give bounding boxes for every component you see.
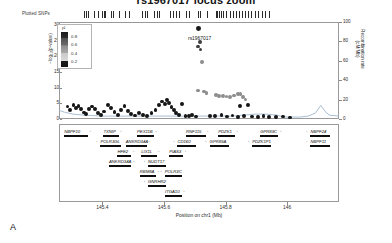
gene-strand-arrow-right: → xyxy=(153,129,158,133)
snp-point xyxy=(200,60,204,64)
snp-tick xyxy=(179,11,180,18)
gene-strand-arrow-right: → xyxy=(234,129,239,133)
gene-exon xyxy=(317,145,325,148)
gene-exon xyxy=(146,155,150,158)
snp-point xyxy=(177,113,181,117)
plotted-snps-track xyxy=(78,11,308,18)
snp-tick xyxy=(145,11,146,18)
gene-model: GPR89C→ xyxy=(260,129,286,139)
gene-exon xyxy=(218,145,222,148)
gene-label: NBPF10 xyxy=(64,129,80,134)
gene-label: NBPF24 xyxy=(310,129,326,134)
snp-point xyxy=(244,98,248,102)
recombination-tick-mark xyxy=(339,100,342,101)
snp-tick xyxy=(198,11,199,18)
gene-label: PIAS3 xyxy=(169,149,181,154)
gene-model: ANKRD34A→ xyxy=(126,139,155,149)
snp-tick xyxy=(125,11,126,18)
snp-point xyxy=(231,114,235,118)
gene-exon xyxy=(109,145,113,148)
recombination-tick-label: 20 xyxy=(343,98,359,102)
gene-label: ANKRD34A xyxy=(109,159,131,164)
recombination-tick-label: 0 xyxy=(343,117,359,121)
gene-exon xyxy=(64,135,81,138)
gene-strand-arrow-left: ← xyxy=(247,139,252,143)
gene-label: NUDT17 xyxy=(148,159,164,164)
gene-model: PIAS3→ xyxy=(169,149,191,159)
gene-strand-arrow-right: → xyxy=(87,129,92,133)
snp-tick xyxy=(248,11,249,18)
plotted-snps-label: Plotted SNPs xyxy=(22,11,50,16)
gene-exon xyxy=(156,185,159,188)
snp-point xyxy=(196,89,200,93)
gene-model: PEX11B→ xyxy=(137,129,162,139)
snp-tick xyxy=(223,11,224,18)
snp-point xyxy=(119,108,123,112)
snp-tick xyxy=(233,11,234,18)
snp-tick xyxy=(245,11,246,18)
gene-label: GPR89A xyxy=(210,139,227,144)
gene-label: TXNIP xyxy=(103,129,115,134)
snp-point xyxy=(225,115,229,119)
y-tick-label: 5 xyxy=(45,101,59,105)
snp-tick xyxy=(176,11,177,18)
recombination-tick-mark xyxy=(339,41,342,42)
snp-tick xyxy=(242,11,243,18)
gene-label: PDZK1P1 xyxy=(252,139,271,144)
snp-tick xyxy=(219,11,220,18)
snp-tick xyxy=(239,11,240,18)
snp-tick xyxy=(269,11,270,18)
gene-model: GPR89A← xyxy=(206,139,234,149)
snp-point xyxy=(123,104,127,108)
gene-label: LIX1L xyxy=(141,149,152,154)
snp-point xyxy=(208,114,212,118)
panel-label: A xyxy=(10,222,16,232)
snp-tick xyxy=(186,11,187,18)
gene-exon xyxy=(172,175,176,178)
snp-tick xyxy=(170,11,171,18)
x-tick-label: 146 xyxy=(283,205,291,210)
gene-model: GNRHR2← xyxy=(144,179,170,189)
gene-exon xyxy=(317,135,325,138)
snp-tick xyxy=(236,11,237,18)
gene-label: GPR89C xyxy=(260,129,277,134)
gene-strand-arrow-right: → xyxy=(156,149,161,153)
gene-strand-arrow-left: ← xyxy=(305,139,310,143)
gene-label: ITGA10 xyxy=(165,189,180,194)
snp-tick xyxy=(230,11,231,18)
recombination-tick-mark xyxy=(339,22,342,23)
gene-exon xyxy=(171,195,177,198)
gene-label: RNF115 xyxy=(186,129,201,134)
recombination-tick-label: 40 xyxy=(343,78,359,82)
snp-point xyxy=(262,114,266,118)
gene-label: PEX11B xyxy=(137,129,153,134)
x-axis-label: Position on chr1 (Mb) xyxy=(59,213,339,218)
gene-exon xyxy=(118,165,122,168)
gene-strand-arrow-left: ← xyxy=(305,129,310,133)
x-tick-label: 145.6 xyxy=(158,205,170,210)
recombination-tick-mark xyxy=(339,119,342,120)
snp-point xyxy=(93,107,97,111)
snp-point xyxy=(256,115,260,119)
snp-point xyxy=(109,106,113,110)
gene-strand-arrow-right: → xyxy=(118,129,123,133)
snp-point xyxy=(150,111,154,115)
snp-point xyxy=(68,108,72,112)
gene-strand-arrow-right: → xyxy=(277,129,282,133)
snp-tick xyxy=(154,11,155,18)
gene-exon xyxy=(260,145,264,148)
gene-model: NBPF11← xyxy=(306,139,334,149)
gene-model: POLR3GL← xyxy=(96,139,125,149)
gene-model: ANKRD34A→ xyxy=(109,159,139,169)
gene-exon xyxy=(143,135,146,138)
snp-point xyxy=(194,115,198,119)
gene-label: PDZK1 xyxy=(218,129,232,134)
gene-label: POLR3GL xyxy=(100,139,119,144)
snp-point xyxy=(199,48,203,52)
snp-tick xyxy=(251,11,252,18)
gene-model: NBPF10→ xyxy=(64,129,96,139)
gene-model: CD160← xyxy=(173,139,199,149)
gene-strand-arrow-right: → xyxy=(130,159,135,163)
lead-snp-label: rs1967017 xyxy=(188,36,211,41)
gene-strand-arrow-left: ← xyxy=(160,169,165,173)
